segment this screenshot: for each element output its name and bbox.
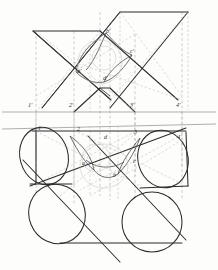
geometry-drawing: .solid { fill:none; stroke:#2b2b2b; stro… — [0, 0, 218, 270]
drawing-canvas: .solid { fill:none; stroke:#2b2b2b; stro… — [0, 0, 218, 270]
label-3-prime: 3' — [130, 102, 134, 108]
label-b: b — [113, 172, 116, 178]
label-c-prime: c' — [130, 48, 134, 54]
label-c: c — [133, 158, 136, 164]
label-d-prime: d' — [103, 75, 107, 81]
plan-cylinder-end-left-lower — [20, 176, 94, 253]
plan-cylinder-end-left-upper — [13, 122, 75, 191]
label-1: 1 — [38, 125, 41, 131]
label-a-prime: a' — [77, 68, 81, 74]
plan-cylinder-end-right-upper — [131, 124, 195, 194]
label-2-prime: 2' — [69, 102, 73, 108]
label-d: d — [104, 134, 107, 140]
elevation-construction-diagonals — [36, 12, 188, 112]
plan-auxiliary-arcs — [80, 144, 128, 188]
label-2: 2 — [77, 126, 80, 132]
elevation-lower-vertex — [74, 88, 135, 112]
elevation-prism-right-to-left — [42, 12, 188, 108]
label-4: 4 — [177, 134, 180, 140]
label-b-prime: b' — [106, 28, 110, 34]
label-a: a — [82, 160, 85, 166]
label-3: 3 — [134, 129, 137, 135]
label-4-prime: 4' — [176, 102, 180, 108]
label-1-prime: 1' — [28, 102, 32, 108]
elevation-prism-left-to-right — [33, 31, 178, 100]
